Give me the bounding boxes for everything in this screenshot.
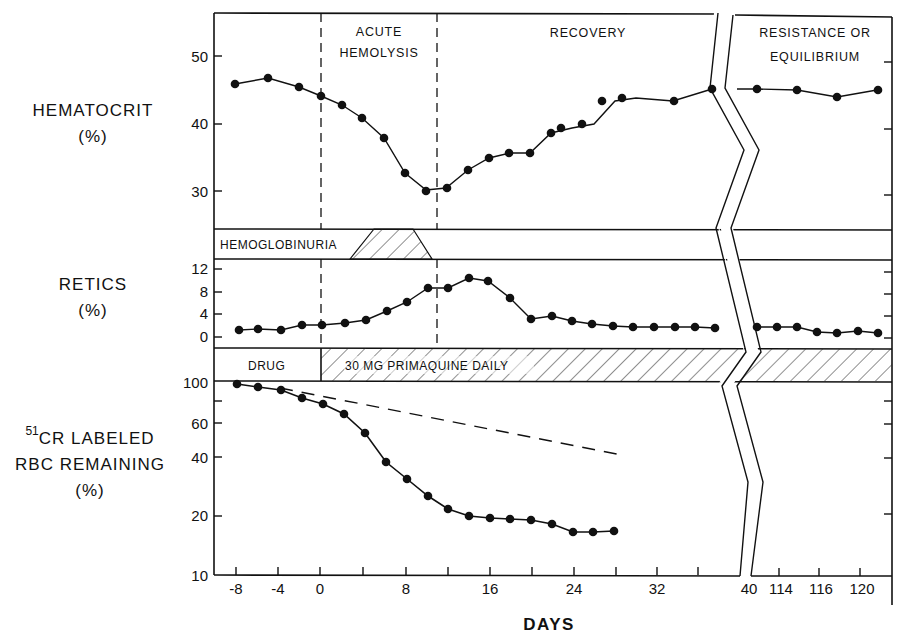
- x-tick--4: -4: [271, 580, 284, 597]
- cr-tick-40: 40: [191, 449, 208, 466]
- phase-resistance-line2: EQUILIBRIUM: [770, 50, 860, 64]
- cr-tick-10: 10: [191, 567, 208, 584]
- phase-acute-line2: HEMOLYSIS: [339, 46, 418, 60]
- hemoglobinuria-band-hatch: [350, 229, 432, 259]
- chart-canvas: HEMOGLOBINURIA DRUG 30 MG PRIMAQUINE DAI…: [0, 0, 902, 639]
- x-tick-120: 120: [849, 580, 874, 597]
- primaquine-label: 30 MG PRIMAQUINE DAILY: [345, 359, 508, 373]
- hct-ticks: [214, 56, 892, 195]
- cr51-series: [233, 380, 622, 537]
- phase-dividers: [321, 13, 437, 348]
- x-tick-24: 24: [566, 580, 583, 597]
- drug-label: DRUG: [248, 359, 285, 373]
- hemoglobinuria-label: HEMOGLOBINURIA: [220, 238, 337, 252]
- x-tick-16: 16: [482, 580, 499, 597]
- ret-tick-4: 4: [200, 305, 208, 322]
- cr-tick-100: 100: [183, 374, 208, 391]
- cr-ticks: [214, 401, 892, 516]
- x-tick--8: -8: [229, 580, 242, 597]
- phase-recovery: RECOVERY: [550, 26, 626, 40]
- x-tick-32: 32: [649, 580, 666, 597]
- hematocrit-series: [231, 74, 883, 196]
- ret-tick-0: 0: [200, 328, 208, 345]
- x-tick-0: 0: [316, 580, 324, 597]
- ret-tick-8: 8: [200, 283, 208, 300]
- x-tick-114: 114: [769, 580, 793, 597]
- cr-tick-60: 60: [191, 415, 208, 432]
- x-tick-40: 40: [741, 580, 758, 597]
- hct-tick-50: 50: [191, 48, 208, 65]
- cr-tick-20: 20: [191, 507, 208, 524]
- x-tick-8: 8: [402, 580, 410, 597]
- retics-series: [235, 274, 883, 338]
- hct-tick-30: 30: [191, 183, 208, 200]
- phase-acute-line1: ACUTE: [356, 25, 402, 39]
- axis-break: [709, 13, 763, 576]
- ret-tick-12: 12: [191, 260, 208, 277]
- x-tick-116: 116: [809, 580, 833, 597]
- plot-frame: [214, 13, 892, 605]
- x-axis-title: DAYS: [523, 615, 575, 634]
- hct-tick-40: 40: [191, 115, 208, 132]
- phase-resistance-line1: RESISTANCE OR: [759, 26, 871, 40]
